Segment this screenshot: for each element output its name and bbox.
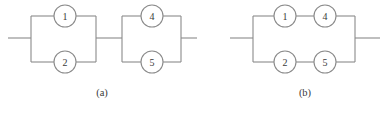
node-b-5[interactable]: 5 <box>314 51 336 73</box>
node-label: 1 <box>63 11 68 22</box>
node-label: 1 <box>283 11 288 22</box>
node-a-4[interactable]: 4 <box>141 5 163 27</box>
node-a-5[interactable]: 5 <box>141 51 163 73</box>
diagram-a: 1 2 4 5 <box>8 5 197 99</box>
node-label: 2 <box>63 57 68 68</box>
node-a-1[interactable]: 1 <box>54 5 76 27</box>
block-b-1-frame <box>253 16 355 62</box>
node-label: 4 <box>323 11 328 22</box>
node-label: 5 <box>323 57 328 68</box>
diagram-b: 1 4 2 5 (b) <box>230 5 380 99</box>
caption-b: (b) <box>299 87 312 99</box>
node-label: 2 <box>283 57 288 68</box>
node-label: 5 <box>150 57 155 68</box>
node-label: 4 <box>150 11 155 22</box>
caption-a: (a) <box>96 87 108 99</box>
node-a-2[interactable]: 2 <box>54 51 76 73</box>
node-b-1[interactable]: 1 <box>274 5 296 27</box>
figure-container: 1 2 4 5 <box>0 0 389 113</box>
reliability-block-diagram: 1 2 4 5 <box>0 0 389 113</box>
node-b-4[interactable]: 4 <box>314 5 336 27</box>
node-b-2[interactable]: 2 <box>274 51 296 73</box>
